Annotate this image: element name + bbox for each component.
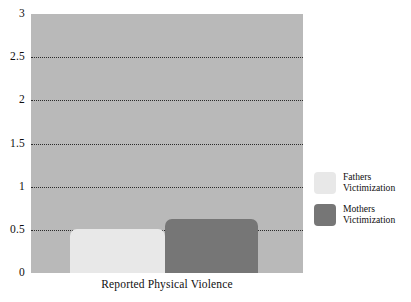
legend-swatch-icon — [314, 204, 336, 226]
y-axis-tick-label: 3 — [19, 8, 25, 20]
legend-swatch-icon — [314, 172, 336, 194]
bar-chart: 32.521.510.50 Reported Physical Violence… — [0, 0, 411, 302]
gridline — [31, 187, 303, 188]
y-axis-tick-label: 1.5 — [10, 138, 25, 150]
legend-item-label: Mothers Victimization — [343, 203, 395, 226]
legend-item[interactable]: Mothers Victimization — [314, 203, 411, 226]
chart-legend: Fathers VictimizationMothers Victimizati… — [314, 171, 411, 235]
legend-item[interactable]: Fathers Victimization — [314, 171, 411, 194]
y-axis-tick-label: 2 — [19, 95, 25, 107]
gridline — [31, 144, 303, 145]
gridline — [31, 100, 303, 101]
y-axis-tick-label: 0.5 — [10, 224, 25, 236]
legend-item-label: Fathers Victimization — [343, 171, 395, 194]
bar-fathers-victimization — [70, 229, 165, 273]
y-axis: 32.521.510.50 — [0, 14, 28, 273]
y-axis-tick-label: 0 — [19, 267, 25, 279]
y-axis-tick-label: 2.5 — [10, 51, 25, 63]
gridline — [31, 57, 303, 58]
bar-mothers-victimization — [165, 219, 258, 273]
y-axis-tick-label: 1 — [19, 181, 25, 193]
x-axis-label: Reported Physical Violence — [31, 278, 303, 291]
plot-area — [31, 14, 303, 273]
